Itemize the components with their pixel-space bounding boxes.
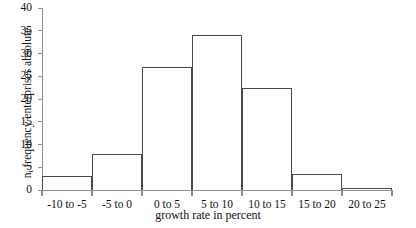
y-tick-mark xyxy=(38,99,43,100)
histogram-bar xyxy=(92,154,142,190)
histogram-bar xyxy=(192,35,242,190)
x-tick-mark xyxy=(291,191,292,196)
x-tick-mark xyxy=(341,191,342,196)
x-axis-title: growth rate in percent xyxy=(0,208,416,223)
histogram-chart: 0510152025303540 -10 to -5-5 to 00 to 55… xyxy=(0,0,416,228)
y-tick-mark xyxy=(38,8,43,9)
y-tick-mark xyxy=(38,53,43,54)
x-tick-mark xyxy=(241,191,242,196)
histogram-bar xyxy=(42,176,92,190)
plot-area: 0510152025303540 -10 to -5-5 to 00 to 55… xyxy=(0,0,416,228)
y-tick-mark xyxy=(38,144,43,145)
y-axis-title: ni frequency enterprises absolute xyxy=(21,15,35,191)
x-tick-mark xyxy=(41,191,42,196)
y-tick-label: 40 xyxy=(10,2,32,14)
x-tick-mark xyxy=(141,191,142,196)
histogram-bar xyxy=(242,88,292,190)
x-tick-mark xyxy=(91,191,92,196)
x-tick-mark xyxy=(391,191,392,196)
y-tick-mark xyxy=(38,167,43,168)
histogram-bar xyxy=(342,188,392,190)
histogram-bar xyxy=(142,67,192,190)
x-axis-line xyxy=(42,190,393,191)
y-tick-mark xyxy=(38,30,43,31)
histogram-bar xyxy=(292,174,342,190)
y-tick-mark xyxy=(38,76,43,77)
x-tick-mark xyxy=(191,191,192,196)
y-tick-mark xyxy=(38,121,43,122)
